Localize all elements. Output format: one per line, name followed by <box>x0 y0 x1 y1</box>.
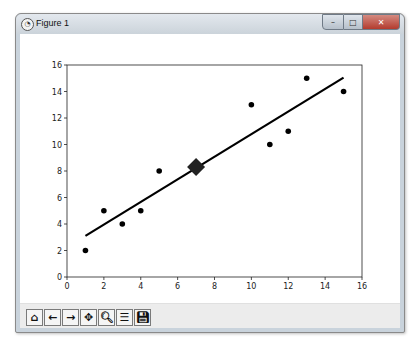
x-tick-label: 12 <box>283 282 293 291</box>
save-button[interactable]: 💾︎ <box>134 309 151 326</box>
configure-button[interactable]: ☰ <box>116 309 133 326</box>
data-point <box>249 102 255 108</box>
plot-axes-frame <box>67 65 362 277</box>
figure-window: ◔ Figure 1 – □ ✕ 02468101214160246810121… <box>15 13 405 333</box>
y-tick-label: 8 <box>57 167 62 176</box>
zoom-icon: 🔍︎ <box>100 312 114 323</box>
arrow-right-icon: → <box>66 312 75 323</box>
data-point <box>83 248 89 254</box>
y-tick-label: 12 <box>52 114 62 123</box>
arrow-left-icon: ← <box>48 312 57 323</box>
y-tick-label: 16 <box>52 61 62 70</box>
data-point <box>138 208 144 214</box>
move-icon: ✥ <box>84 312 93 323</box>
x-tick-label: 0 <box>64 282 69 291</box>
x-tick-label: 6 <box>175 282 180 291</box>
pan-button[interactable]: ✥ <box>80 309 97 326</box>
close-button[interactable]: ✕ <box>363 14 400 30</box>
home-button[interactable]: ⌂ <box>26 309 43 326</box>
y-tick-label: 14 <box>52 88 62 97</box>
figure-canvas[interactable]: 02468101214160246810121416 ⌂←→✥🔍︎☰💾︎ <box>20 34 400 328</box>
zoom-button[interactable]: 🔍︎ <box>98 309 115 326</box>
home-icon: ⌂ <box>31 312 39 323</box>
y-tick-label: 2 <box>57 247 62 256</box>
window-title: Figure 1 <box>36 18 69 28</box>
x-tick-label: 2 <box>101 282 106 291</box>
scatter-plot[interactable]: 02468101214160246810121416 <box>20 34 400 328</box>
back-button[interactable]: ← <box>44 309 61 326</box>
window-controls: – □ ✕ <box>322 14 400 30</box>
x-tick-label: 8 <box>212 282 217 291</box>
maximize-button[interactable]: □ <box>344 14 363 30</box>
save-icon: 💾︎ <box>136 312 150 323</box>
data-point <box>156 168 162 174</box>
x-tick-label: 14 <box>320 282 330 291</box>
data-point <box>120 221 126 227</box>
x-tick-label: 16 <box>357 282 367 291</box>
minimize-button[interactable]: – <box>322 14 344 30</box>
title-bar[interactable]: ◔ Figure 1 – □ ✕ <box>16 14 404 34</box>
sliders-icon: ☰ <box>120 312 130 323</box>
data-point <box>304 75 310 81</box>
y-tick-label: 6 <box>57 194 62 203</box>
y-tick-label: 0 <box>57 273 62 282</box>
data-point <box>267 142 273 148</box>
data-point <box>285 128 291 134</box>
navigation-toolbar: ⌂←→✥🔍︎☰💾︎ <box>20 303 400 328</box>
forward-button[interactable]: → <box>62 309 79 326</box>
data-point <box>341 89 347 95</box>
data-point <box>101 208 107 214</box>
x-tick-label: 4 <box>138 282 143 291</box>
y-tick-label: 10 <box>52 141 62 150</box>
matplotlib-figure-icon: ◔ <box>21 18 34 31</box>
x-tick-label: 10 <box>246 282 256 291</box>
y-tick-label: 4 <box>57 220 62 229</box>
